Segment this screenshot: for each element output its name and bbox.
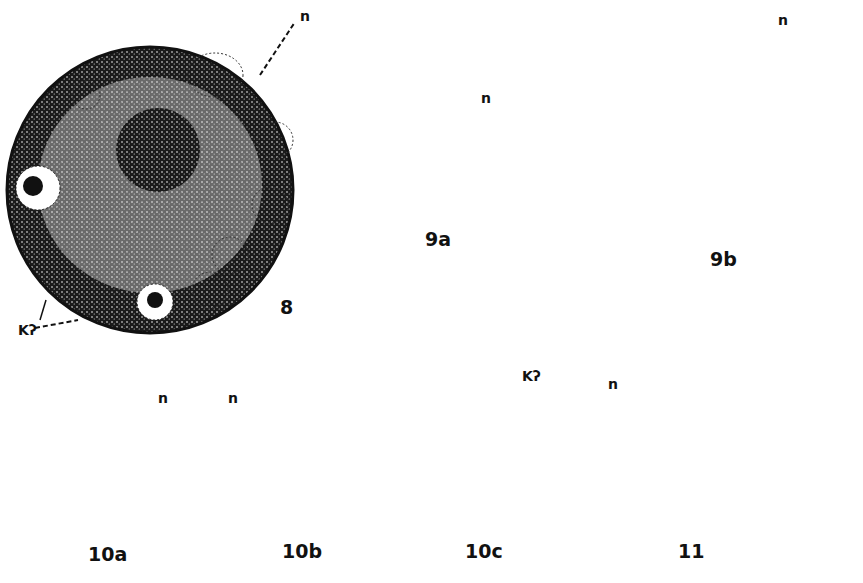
panel-label-10c: 10c: [465, 540, 503, 562]
panel-label-11: 11: [678, 540, 704, 562]
annotation-n-9a: n: [481, 90, 491, 106]
annotation-n-8: n: [300, 8, 310, 24]
panel-label-10b: 10b: [282, 540, 322, 562]
cell-figure-plate: [0, 0, 863, 583]
panel-label-9b: 9b: [710, 248, 737, 270]
panel-label-8: 8: [280, 296, 293, 318]
panel-label-10a: 10a: [88, 543, 127, 565]
annotation-k-8: Kʔ: [18, 322, 37, 338]
panel-8: [7, 22, 295, 333]
panel-label-9a: 9a: [425, 228, 451, 250]
annotation-n-10a: n: [158, 390, 168, 406]
annotation-n-10b: n: [228, 390, 238, 406]
annotation-n-9b: n: [778, 12, 788, 28]
annotation-k-10c: Kʔ: [522, 368, 541, 384]
annotation-n-11: n: [608, 376, 618, 392]
